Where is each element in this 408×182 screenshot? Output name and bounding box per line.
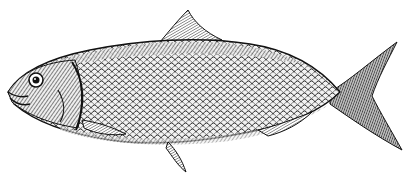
dorsal-fin [160,10,222,42]
fish-head [8,60,82,128]
pelvic-fin [166,142,186,172]
fish-illustration [0,0,408,182]
tail-fin [330,42,402,150]
